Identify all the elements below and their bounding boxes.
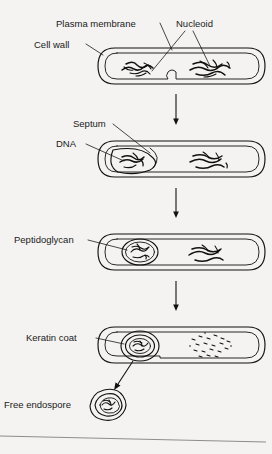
plasma-membrane-outline-stage1 — [105, 53, 259, 79]
label-septum: Septum — [73, 118, 106, 129]
leader-keratin-coat — [96, 338, 124, 344]
free-endospore-dna — [102, 400, 115, 410]
forespore-cortex-outer-stage3 — [122, 239, 158, 265]
stage-1-vegetative-cell — [98, 48, 265, 84]
stage-2-septum-forespore — [98, 141, 265, 177]
stage-5-free-endospore — [90, 389, 126, 420]
nucleoid-tangle-left-stage1 — [122, 62, 153, 76]
stage-4-spore-coat — [98, 327, 265, 363]
nucleoid-tangle-right-stage1 — [190, 60, 230, 77]
dna-tangle-mother-stage3 — [189, 245, 223, 261]
label-plasma-membrane: Plasma membrane — [56, 18, 136, 29]
leader-nucleoid-left — [152, 31, 185, 71]
dna-coil-forespore-stage3 — [131, 244, 149, 259]
leader-plasma-membrane — [160, 23, 172, 50]
label-free-endospore: Free endospore — [4, 399, 71, 410]
endospore-formation-figure: Plasma membrane Nucleoid Cell wall — [0, 0, 272, 454]
dna-tangle-forespore-stage2 — [120, 153, 144, 168]
dna-tangle-mother-stage2 — [190, 152, 227, 168]
stage-3-engulfed-forespore — [98, 234, 265, 270]
free-endospore-core — [100, 398, 120, 413]
page-bottom-rule — [0, 436, 266, 442]
arrow-release-endospore — [116, 361, 133, 387]
leader-cell-wall — [86, 44, 103, 55]
label-keratin-coat: Keratin coat — [26, 332, 77, 343]
dna-core-stage4 — [133, 341, 148, 351]
label-nucleoid: Nucleoid — [176, 18, 213, 29]
label-dna: DNA — [56, 138, 77, 149]
forespore-cortex-inner-stage3 — [126, 242, 155, 262]
plasma-membrane-outline-stage4 — [105, 332, 259, 358]
leader-peptidoglycan — [88, 240, 127, 250]
degrading-dna-fragments-stage4 — [189, 332, 232, 357]
label-peptidoglycan: Peptidoglycan — [14, 234, 74, 245]
label-cell-wall: Cell wall — [34, 39, 69, 50]
